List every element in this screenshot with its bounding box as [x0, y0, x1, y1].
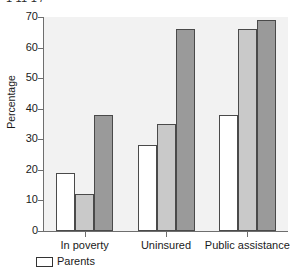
- bar: [138, 145, 157, 231]
- clipped-caption-fragment: 1 11 1 /: [6, 0, 206, 2]
- y-axis-tick: [38, 139, 43, 140]
- y-axis-tick-label: 20: [0, 164, 38, 175]
- bar: [257, 20, 276, 231]
- x-axis-category-label: Public assistance: [187, 239, 290, 251]
- y-axis-tick-label: 30: [0, 133, 38, 144]
- y-axis-tick: [38, 200, 43, 201]
- bar-chart-figure: 1 11 1 / Percentage 010203040506070 In p…: [0, 0, 290, 272]
- bar: [219, 115, 238, 231]
- y-axis-tick-label: 70: [0, 11, 38, 22]
- y-axis-tick: [38, 170, 43, 171]
- legend-swatch: [36, 257, 53, 267]
- x-axis-tick: [166, 232, 167, 237]
- bar: [75, 194, 94, 231]
- y-axis-tick-label: 60: [0, 42, 38, 53]
- legend-label: Parents: [57, 256, 95, 267]
- y-axis-tick-label: 40: [0, 103, 38, 114]
- y-axis-tick: [38, 17, 43, 18]
- x-axis-tick: [85, 232, 86, 237]
- y-axis-tick: [38, 231, 43, 232]
- bar: [157, 124, 176, 231]
- y-axis-tick-label: 0: [0, 225, 38, 236]
- bar: [238, 29, 257, 231]
- y-axis-line: [43, 17, 44, 232]
- bar: [94, 115, 113, 231]
- bar: [176, 29, 195, 231]
- y-axis-tick: [38, 78, 43, 79]
- y-axis-tick-label: 10: [0, 194, 38, 205]
- y-axis-tick: [38, 48, 43, 49]
- y-axis-tick: [38, 109, 43, 110]
- bar: [56, 173, 75, 231]
- legend: Parents: [36, 256, 95, 267]
- x-axis-tick: [247, 232, 248, 237]
- y-axis-tick-label: 50: [0, 72, 38, 83]
